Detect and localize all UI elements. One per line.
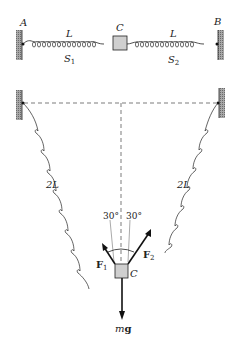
label-b: B <box>213 16 221 27</box>
block-c-top <box>113 36 127 50</box>
label-2l-left: 2L <box>45 179 59 190</box>
label-s1: S1 <box>64 53 75 66</box>
diagram-canvas: A B C L L S1 S2 2L 2L 30° 30° <box>0 0 240 340</box>
spring-s1 <box>23 41 104 47</box>
label-s2: S2 <box>168 54 179 67</box>
label-f2: F2 <box>143 249 155 262</box>
wall-b <box>218 30 224 60</box>
block-c-bottom <box>115 264 128 278</box>
label-l-left: L <box>65 28 73 39</box>
label-mg: mg <box>115 323 131 334</box>
label-c-bottom: C <box>130 268 138 279</box>
wall-left <box>16 90 22 120</box>
label-l-right: L <box>169 28 177 39</box>
label-c-top: C <box>116 22 124 33</box>
top-figure: A B C L L S1 S2 <box>16 16 224 67</box>
label-2l-right: 2L <box>176 179 190 190</box>
wall-a <box>16 30 22 60</box>
spring-right-stretched <box>165 103 218 253</box>
bottom-figure: 2L 2L 30° 30° F1 F2 C mg <box>16 88 225 334</box>
label-angle-left: 30° <box>103 211 119 221</box>
wall-right <box>219 88 225 118</box>
spring-left-stretched <box>23 103 89 289</box>
spring-s2 <box>127 42 204 47</box>
label-angle-right: 30° <box>126 211 142 221</box>
label-f1: F1 <box>96 259 108 272</box>
label-a: A <box>19 17 27 28</box>
